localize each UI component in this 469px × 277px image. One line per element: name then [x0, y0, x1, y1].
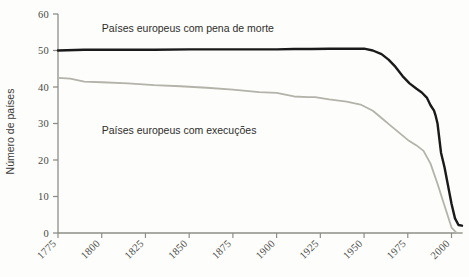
- y-tick-label: 0: [43, 228, 49, 239]
- series-label: Países europeus com execuções: [102, 124, 257, 136]
- y-tick-label: 60: [38, 9, 49, 20]
- y-axis-title-text: Número de países: [4, 89, 16, 175]
- y-axis-title: Número de países: [4, 89, 16, 175]
- y-tick-label: 40: [38, 82, 49, 93]
- chart-background: [0, 0, 469, 277]
- y-tick-label: 20: [38, 155, 49, 166]
- y-tick-label: 50: [38, 45, 49, 56]
- line-chart: 0102030405060 17751800182518501875190019…: [0, 0, 469, 277]
- chart-container: 0102030405060 17751800182518501875190019…: [0, 0, 469, 277]
- y-tick-label: 30: [38, 118, 49, 129]
- series-label: Países europeus com pena de morte: [102, 22, 274, 34]
- y-tick-label: 10: [38, 191, 49, 202]
